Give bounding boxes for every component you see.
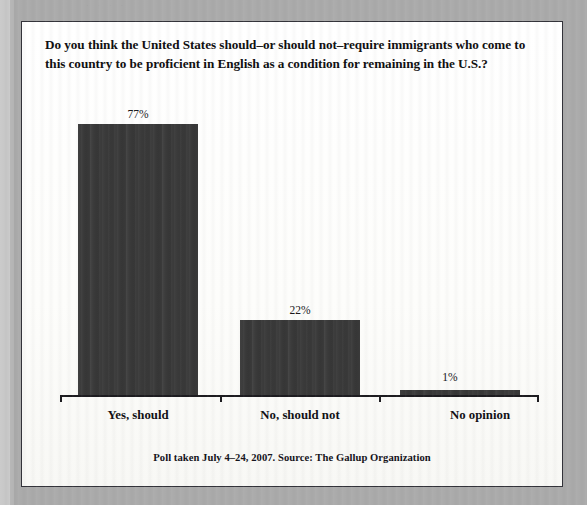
- bar-no-should-not: [240, 320, 360, 396]
- bar-chart-plot-area: 77% Yes, should 22% No, should not 1% No…: [22, 22, 564, 488]
- x-axis-tick-1: [220, 395, 222, 402]
- category-label-no-opinion: No opinion: [410, 408, 550, 423]
- category-label-yes-should: Yes, should: [68, 408, 208, 423]
- x-axis-tick-0: [60, 395, 62, 402]
- bar-value-no-should-not: 22%: [240, 304, 360, 316]
- bar-value-no-opinion: 1%: [390, 371, 510, 383]
- bar-yes-should: [78, 124, 198, 396]
- x-axis-baseline: [60, 395, 538, 397]
- cut-off-text-remnant: . . . .: [86, 0, 266, 6]
- x-axis-tick-3: [537, 395, 539, 402]
- figure-card: Do you think the United States should–or…: [21, 21, 563, 487]
- x-axis-tick-2: [379, 395, 381, 402]
- figure-card-inner: Do you think the United States should–or…: [22, 22, 562, 486]
- bar-value-yes-should: 77%: [78, 108, 198, 120]
- category-label-no-should-not: No, should not: [225, 408, 375, 423]
- source-note: Poll taken July 4–24, 2007. Source: The …: [22, 452, 562, 463]
- scanned-page-background: . . . . Do you think the United States s…: [0, 0, 587, 505]
